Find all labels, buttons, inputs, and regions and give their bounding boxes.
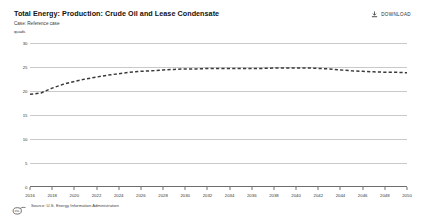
x-tick-label: 2032 <box>203 193 213 198</box>
data-series-line <box>30 43 407 187</box>
x-tick-mark <box>340 187 341 190</box>
eia-logo: eia <box>12 201 27 210</box>
x-tick-mark <box>118 187 119 190</box>
x-tick-label: 2020 <box>70 193 80 198</box>
x-tick-label: 2044 <box>336 193 346 198</box>
download-tray-icon <box>371 11 378 18</box>
svg-text:eia: eia <box>15 209 20 213</box>
x-tick-mark <box>140 187 141 190</box>
x-tick-mark <box>251 187 252 190</box>
chart-footer: eia Source: U.S. Energy Information Admi… <box>12 201 119 210</box>
series-path <box>30 68 407 94</box>
chart-header: Total Energy: Production: Crude Oil and … <box>14 9 412 35</box>
y-tick-label: 15 <box>23 113 28 118</box>
chart-subtitle: Case: Reference case <box>14 20 412 27</box>
x-tick-label: 2046 <box>358 193 368 198</box>
x-tick-label: 2030 <box>180 193 190 198</box>
y-tick-label: 5 <box>25 161 27 166</box>
x-tick-mark <box>74 187 75 190</box>
y-tick-label: 25 <box>23 65 28 70</box>
x-tick-label: 2038 <box>269 193 279 198</box>
y-tick-label: 20 <box>23 89 28 94</box>
x-tick-mark <box>273 187 274 190</box>
x-tick-label: 2042 <box>314 193 324 198</box>
x-tick-label: 2022 <box>92 193 102 198</box>
x-tick-mark <box>96 187 97 190</box>
x-tick-label: 2040 <box>291 193 301 198</box>
x-tick-label: 2026 <box>136 193 146 198</box>
x-tick-mark <box>362 187 363 190</box>
x-tick-label: 2034 <box>225 193 235 198</box>
x-tick-label: 2016 <box>25 193 35 198</box>
y-tick-label: 30 <box>23 41 28 46</box>
x-tick-mark <box>407 187 408 190</box>
x-tick-label: 2050 <box>402 193 412 198</box>
chart-card: Total Energy: Production: Crude Oil and … <box>0 0 422 218</box>
y-tick-label: 10 <box>23 137 28 142</box>
x-tick-label: 2048 <box>380 193 390 198</box>
x-tick-label: 2024 <box>114 193 124 198</box>
x-tick-label: 2018 <box>47 193 57 198</box>
page-title: Total Energy: Production: Crude Oil and … <box>14 9 412 18</box>
x-tick-mark <box>229 187 230 190</box>
x-tick-mark <box>163 187 164 190</box>
x-tick-label: 2036 <box>247 193 257 198</box>
x-axis-line <box>30 186 407 187</box>
x-tick-mark <box>207 187 208 190</box>
x-tick-label: 2028 <box>158 193 168 198</box>
x-tick-mark <box>185 187 186 190</box>
download-button[interactable]: DOWNLOAD <box>371 11 411 18</box>
x-tick-mark <box>296 187 297 190</box>
chart-plot-area: 051015202530 201620182020202220242026202… <box>30 43 407 187</box>
x-tick-mark <box>384 187 385 190</box>
x-tick-mark <box>30 187 31 190</box>
x-tick-mark <box>52 187 53 190</box>
download-label: DOWNLOAD <box>381 12 411 17</box>
x-tick-mark <box>318 187 319 190</box>
y-axis-unit-label: quads <box>14 29 412 35</box>
y-tick-label: 0 <box>25 185 27 190</box>
source-text: Source: U.S. Energy Information Administ… <box>31 203 119 208</box>
